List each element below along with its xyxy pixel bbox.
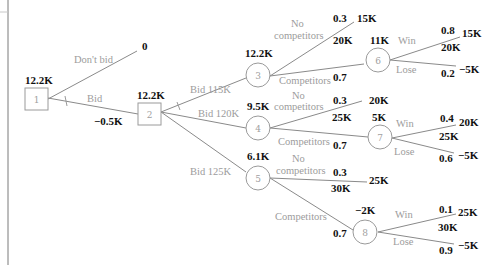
payoff-n3-no-competitors: 15K [357, 12, 377, 24]
cash-n4-no-competitors: 25K [332, 111, 352, 123]
node-6-value: 11K [370, 34, 389, 46]
payoff-n5-no-competitors: 25K [369, 174, 389, 186]
branch-label-competitors: competitors [274, 30, 324, 41]
branch-label-n5-competitors: Competitors [275, 211, 327, 222]
node-id: 3 [255, 71, 261, 81]
payoff-n7-lose: −5K [458, 149, 479, 161]
branch-label-bid-115k: Bid 115K [190, 84, 231, 95]
node-1-value: 12.2K [25, 74, 53, 86]
node-7-value: 5K [372, 111, 387, 123]
edge-bid-125k [161, 112, 246, 172]
cash-n7-win: 25K [439, 130, 459, 142]
pruned-tick-mark [177, 102, 180, 110]
prob-n4-no-competitors: 0.3 [333, 94, 347, 106]
branch-label-bid: Bid [87, 93, 103, 104]
branch-label-no: No [292, 90, 305, 101]
node-3-value: 12.2K [245, 47, 273, 59]
chance-node-4[interactable]: 4 [246, 116, 270, 140]
payoff-n7-win: 20K [459, 116, 479, 128]
branch-label-no: No [291, 18, 304, 29]
payoff-n4-no-competitors: 20K [369, 94, 389, 106]
prob-n7-win: 0.4 [440, 112, 454, 124]
decision-node-1[interactable]: 1 [25, 88, 48, 110]
node-id: 4 [255, 124, 261, 134]
bid-cost: −0.5K [94, 115, 123, 127]
branch-label-n6-win: Win [398, 35, 416, 46]
payoff-dont-bid: 0 [142, 40, 148, 52]
chance-node-5[interactable]: 5 [246, 166, 270, 190]
branch-label-n4-competitors: Competitors [278, 136, 330, 147]
branch-label-n8-lose: Lose [393, 236, 414, 247]
chance-node-7[interactable]: 7 [368, 125, 392, 149]
prob-n5-no-competitors: 0.3 [333, 166, 347, 178]
node-id: 2 [147, 110, 153, 120]
edge-n8-lose [378, 232, 454, 244]
branch-label-competitors: competitors [274, 101, 324, 112]
branch-label-n8-win: Win [395, 209, 413, 220]
branch-label-bid-120k: Bid 120K [198, 108, 240, 119]
cash-n3-no-competitors: 20K [333, 34, 353, 46]
node-5-value: 6.1K [247, 150, 270, 162]
chance-node-6[interactable]: 6 [366, 48, 390, 72]
branch-label-n3-competitors: Competitors [279, 75, 331, 86]
decision-node-2[interactable]: 2 [138, 103, 161, 125]
decision-tree-diagram: 1 12.2K 2 12.2K 3 12.2K 4 9.5K 5 6.1K 6 … [0, 0, 501, 265]
cash-n8-win: 30K [438, 221, 458, 233]
node-4-value: 9.5K [247, 100, 270, 112]
prob-n7-lose: 0.6 [439, 152, 453, 164]
payoff-n6-win: 15K [462, 27, 482, 39]
branch-label-bid-125k: Bid 125K [190, 166, 232, 177]
chance-node-8[interactable]: 8 [353, 220, 377, 244]
prob-n3-competitors: 0.7 [333, 71, 347, 83]
prob-n3-no-competitors: 0.3 [333, 12, 347, 24]
branch-label-n7-lose: Lose [394, 146, 415, 157]
branch-label-n7-win: Win [396, 118, 414, 129]
node-8-value: −2K [355, 204, 376, 216]
node-2-value: 12.2K [137, 89, 165, 101]
prob-n8-lose: 0.9 [439, 244, 453, 256]
branch-label-no: No [292, 153, 305, 164]
node-id: 5 [255, 174, 261, 184]
cash-n5-no-competitors: 30K [331, 182, 351, 194]
prob-n5-competitors: 0.7 [333, 227, 347, 239]
node-id: 8 [362, 228, 368, 238]
prob-n6-lose: 0.2 [441, 67, 455, 79]
prob-n6-win: 0.8 [441, 24, 455, 36]
prob-n8-win: 0.1 [439, 203, 453, 215]
payoff-n6-lose: −5K [459, 63, 480, 75]
payoff-n8-win: 25K [458, 206, 478, 218]
branch-label-n6-lose: Lose [396, 64, 417, 75]
chance-node-3[interactable]: 3 [246, 63, 270, 87]
prob-n4-competitors: 0.7 [333, 139, 347, 151]
branch-label-competitors: competitors [276, 165, 326, 176]
node-id: 6 [375, 56, 381, 66]
cash-n6-win: 20K [441, 41, 461, 53]
payoff-n8-lose: −5K [458, 239, 479, 251]
branch-label-dont-bid: Don't bid [74, 54, 114, 65]
node-id: 1 [34, 95, 40, 105]
node-id: 7 [377, 133, 383, 143]
edge-n5-no-competitors [270, 178, 367, 182]
